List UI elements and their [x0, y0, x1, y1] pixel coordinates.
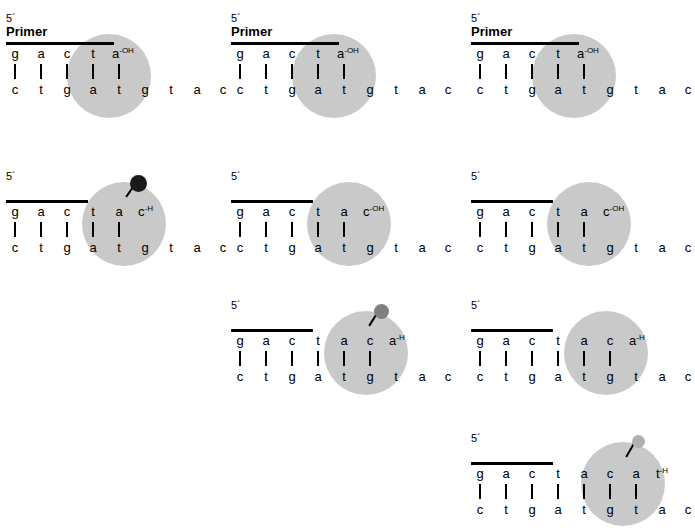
- nucleotide-base: a-OH: [577, 46, 591, 62]
- nucleotide-base: c: [441, 369, 455, 385]
- five-prime-label: 5´: [471, 299, 481, 311]
- nucleotide-base: t: [629, 369, 643, 385]
- nucleotide-base: c: [525, 333, 539, 349]
- nucleotide-base: g: [473, 466, 487, 482]
- nucleotide-base: a: [499, 333, 513, 349]
- primer-bar: [231, 42, 339, 45]
- base-pair-bond: [92, 222, 94, 237]
- five-prime-label: 5´: [471, 12, 481, 24]
- nucleotide-base: a: [86, 240, 100, 256]
- five-prime-label: 5´: [471, 432, 481, 444]
- nucleotide-base: c: [681, 369, 695, 385]
- nucleotide-base: t: [499, 369, 513, 385]
- nucleotide-base: a: [415, 82, 429, 98]
- base-pair-bond: [479, 64, 481, 79]
- nucleotide-base: t: [112, 240, 126, 256]
- base-pair-bond: [583, 64, 585, 79]
- base-pair-bond: [583, 222, 585, 237]
- nucleotide-base: g: [473, 333, 487, 349]
- base-pair-bond: [239, 222, 241, 237]
- nucleotide-base: a: [551, 502, 565, 518]
- nucleotide-base: t: [112, 82, 126, 98]
- active-site-circle: [581, 442, 665, 526]
- polymerase-step-panel: 5´gactaca-Hctgatgtac: [229, 299, 444, 409]
- nucleotide-base: t: [164, 240, 178, 256]
- nucleotide-base: t: [34, 240, 48, 256]
- primer-bar: [231, 200, 313, 203]
- primer-bar: [471, 200, 553, 203]
- base-pair-bond: [118, 222, 120, 237]
- base-pair-bond: [557, 64, 559, 79]
- base-pair-bond: [118, 64, 120, 79]
- nucleotide-base: t: [551, 333, 565, 349]
- nucleotide-base: a: [259, 204, 273, 220]
- five-prime-label: 5´: [471, 170, 481, 182]
- nucleotide-base: g: [363, 240, 377, 256]
- primer-label: Primer: [6, 24, 47, 39]
- base-pair-bond: [479, 222, 481, 237]
- nucleotide-base: c: [603, 466, 617, 482]
- polymerase-step-panel: 5´gactac-OHctgatgtac: [229, 170, 444, 280]
- base-pair-bond: [557, 351, 559, 366]
- base-pair-bond: [531, 222, 533, 237]
- nucleotide-base: a: [577, 204, 591, 220]
- polymerase-step-panel: 5´gactaca-Hctgatgtac: [469, 299, 684, 409]
- nucleotide-base: c: [441, 240, 455, 256]
- nucleotide-base: t: [499, 240, 513, 256]
- nucleotide-base: a: [311, 240, 325, 256]
- base-pair-bond: [505, 351, 507, 366]
- base-modifier-label: -OH: [610, 204, 625, 213]
- base-pair-bond: [479, 351, 481, 366]
- base-pair-bond: [14, 64, 16, 79]
- base-pair-bond: [265, 64, 267, 79]
- nucleotide-base: t: [629, 240, 643, 256]
- nucleotide-base: c: [525, 466, 539, 482]
- base-pair-bond: [343, 351, 345, 366]
- base-pair-bond: [557, 484, 559, 499]
- nucleotide-base: a: [551, 82, 565, 98]
- nucleotide-base: t: [311, 333, 325, 349]
- base-pair-bond: [343, 222, 345, 237]
- nucleotide-base: g: [285, 82, 299, 98]
- five-prime-label: 5´: [6, 170, 16, 182]
- nucleotide-base: c: [363, 333, 377, 349]
- nucleotide-base: g: [363, 82, 377, 98]
- nucleotide-base: t: [551, 46, 565, 62]
- five-prime-label: 5´: [6, 12, 16, 24]
- nucleotide-base: c: [473, 82, 487, 98]
- nucleotide-base: c: [285, 333, 299, 349]
- base-pair-bond: [291, 222, 293, 237]
- base-pair-bond: [479, 484, 481, 499]
- five-prime-label: 5´: [231, 170, 241, 182]
- polymerase-step-panel: 5´Primergacta-OHctgatgtac: [229, 12, 444, 122]
- nucleotide-base: a: [415, 240, 429, 256]
- nucleotide-base: t: [389, 82, 403, 98]
- base-pair-bond: [505, 484, 507, 499]
- nucleotide-base: c: [525, 46, 539, 62]
- nucleotide-base: t: [577, 240, 591, 256]
- base-modifier-label: -OH: [584, 46, 599, 55]
- base-pair-bond: [531, 351, 533, 366]
- nucleotide-base: a: [34, 46, 48, 62]
- nucleotide-base: c: [473, 240, 487, 256]
- nucleotide-base: a: [259, 46, 273, 62]
- nucleotide-base: c: [473, 502, 487, 518]
- nucleotide-base: a: [190, 240, 204, 256]
- base-pair-bond: [531, 484, 533, 499]
- nucleotide-base: t: [311, 204, 325, 220]
- base-pair-bond: [239, 64, 241, 79]
- base-pair-bond: [14, 222, 16, 237]
- nucleotide-base: t: [164, 82, 178, 98]
- nucleotide-base: a: [415, 369, 429, 385]
- nucleotide-base: a: [655, 502, 669, 518]
- active-site-circle: [292, 34, 376, 118]
- nucleotide-base: t: [551, 466, 565, 482]
- nucleotide-base: t: [337, 240, 351, 256]
- polymerase-step-panel: 5´gactacat-Hctgatgtac: [469, 432, 684, 530]
- base-modifier-label: -H: [396, 333, 404, 342]
- nucleotide-base: t: [551, 204, 565, 220]
- nucleotide-base: c: [285, 204, 299, 220]
- nucleotide-base: a: [655, 82, 669, 98]
- base-pair-bond: [505, 64, 507, 79]
- nucleotide-base: a-OH: [337, 46, 351, 62]
